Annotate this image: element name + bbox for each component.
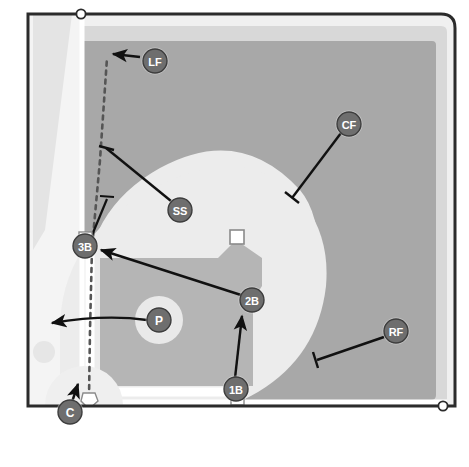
baseball-field-diagram: LF CF RF SS 2B [0,0,469,467]
catcher-marker-circle [58,400,82,424]
position-marker-3b[interactable]: 3B [72,233,99,260]
ss-marker-circle [168,198,192,222]
position-marker-2b[interactable]: 2B [239,287,266,314]
left-foul-pole-marker [76,9,85,18]
third-baseman-marker-circle [73,234,97,258]
third-base-approach-tick [100,196,114,197]
second-base-bag [230,230,244,244]
lf-marker-circle [143,49,167,73]
cf-marker-circle [337,112,361,136]
second-baseman-marker-circle [240,288,264,312]
position-marker-rf[interactable]: RF [383,318,410,345]
pitcher-marker-circle [147,308,171,332]
position-marker-1b[interactable]: 1B [223,376,250,403]
first-baseman-marker-circle [224,377,248,401]
position-marker-ss[interactable]: SS [167,197,194,224]
position-marker-c[interactable]: C [57,399,84,426]
position-marker-lf[interactable]: LF [142,48,169,75]
diagram-canvas: LF CF RF SS 2B [0,0,469,467]
rf-marker-circle [384,319,408,343]
position-marker-p[interactable]: P [146,307,173,334]
position-marker-cf[interactable]: CF [336,111,363,138]
right-foul-pole-marker [438,401,447,410]
on-deck-circle-left [33,341,55,363]
